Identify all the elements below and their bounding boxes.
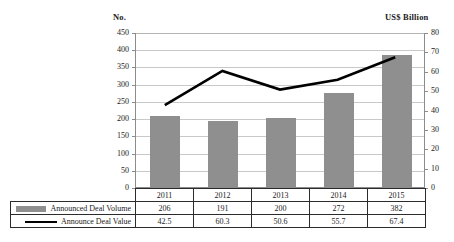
right-tick-label: 30 [431,126,439,134]
right-tick-label: 70 [431,48,439,56]
axis-tick [132,67,136,68]
table-series-label: Announce Deal Value [61,217,131,226]
table-legend-cell: Announce Deal Value [11,215,136,228]
table-year-row: 20112012201320142015 [11,189,426,202]
bar [382,55,412,187]
left-tick-label: 450 [117,29,129,37]
bar-swatch-icon [16,203,46,214]
table-year-cell: 2015 [368,189,426,202]
left-tick-label: 150 [117,132,129,140]
table-year-cell: 2014 [310,189,368,202]
axis-tick [132,136,136,137]
table-value-cell: 60.3 [194,215,252,228]
table-row: Announce Deal Value42.560.350.655.767.4 [11,215,426,228]
table-year-cell: 2012 [194,189,252,202]
gridline [136,67,424,68]
data-table: 20112012201320142015Announced Deal Volum… [10,188,426,228]
axis-tick [132,50,136,51]
right-tick-label: 40 [431,107,439,115]
table-corner-cell [11,189,136,202]
table-legend-cell: Announced Deal Volume [11,202,136,215]
table-row: Announced Deal Volume206191200272382 [11,202,426,215]
left-tick-label: 400 [117,46,129,54]
axis-tick [424,130,428,131]
axis-tick [424,33,428,34]
axis-tick [132,102,136,103]
table-value-cell: 42.5 [136,215,194,228]
line-swatch-icon [25,216,57,227]
bar [324,93,354,187]
gridline [136,85,424,86]
table-value-cell: 67.4 [368,215,426,228]
left-tick-label: 200 [117,115,129,123]
table-year-cell: 2013 [252,189,310,202]
table-year-cell: 2011 [136,189,194,202]
line-swatch-icon-glyph [25,221,57,223]
bar [266,118,296,187]
left-tick-label: 300 [117,81,129,89]
left-tick-label: 50 [121,167,129,175]
axis-tick [424,111,428,112]
bar-swatch-icon-glyph [16,206,46,212]
right-tick-label: 80 [431,29,439,37]
table-value-cell: 382 [368,202,426,215]
right-tick-label: 20 [431,145,439,153]
bar [208,121,238,187]
table-value-cell: 50.6 [252,215,310,228]
axis-tick [132,85,136,86]
axis-tick [132,154,136,155]
axis-tick [132,119,136,120]
axis-tick [424,149,428,150]
table-series-label: Announced Deal Volume [50,204,131,213]
right-tick-label: 0 [431,184,435,192]
table-value-cell: 272 [310,202,368,215]
right-tick-label: 10 [431,165,439,173]
gridline [136,50,424,51]
line-path [165,57,395,105]
right-tick-label: 50 [431,87,439,95]
right-tick-label: 60 [431,68,439,76]
left-axis-unit-label: No. [113,12,126,22]
plot-area: 050100150200250300350400450 010203040506… [135,33,425,188]
gridline [136,33,424,34]
chart-figure: No. US$ Billion 050100150200250300350400… [0,0,454,242]
left-tick-label: 100 [117,150,129,158]
bar [150,116,180,187]
axis-tick [132,33,136,34]
left-tick-label: 350 [117,63,129,71]
left-tick-label: 250 [117,98,129,106]
right-axis-unit-label: US$ Billion [385,12,429,22]
gridline [136,102,424,103]
table-value-cell: 200 [252,202,310,215]
axis-tick [424,72,428,73]
table-value-cell: 206 [136,202,194,215]
axis-tick [424,52,428,53]
axis-tick [424,169,428,170]
table-value-cell: 191 [194,202,252,215]
table-value-cell: 55.7 [310,215,368,228]
axis-tick [424,91,428,92]
axis-tick [132,171,136,172]
